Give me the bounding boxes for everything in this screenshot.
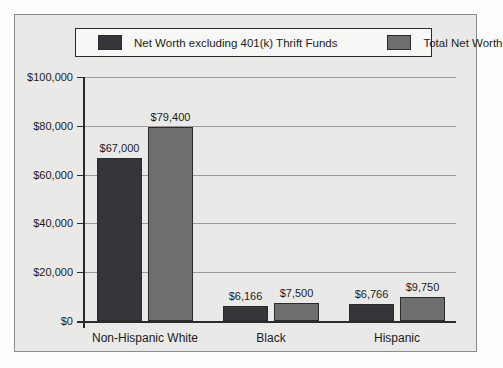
bar-net-worth-excluding-401-k-thrift-funds-black: [223, 306, 268, 321]
y-axis-label-80-000: $80,000: [5, 120, 73, 132]
bar-total-net-worth-black: [274, 303, 319, 321]
plot-area: $100,000$80,000$60,000$40,000$20,000$0$6…: [15, 15, 476, 351]
y-axis-label-0: $0: [5, 315, 73, 327]
y-axis-label-20-000: $20,000: [5, 266, 73, 278]
y-axis-label-60-000: $60,000: [5, 169, 73, 181]
bar-net-worth-excluding-401-k-thrift-funds-hispanic: [349, 304, 394, 321]
bar-net-worth-excluding-401-k-thrift-funds-non-hispanic-white: [97, 158, 142, 321]
gridline-80-000: [83, 126, 456, 127]
y-axis-label-40-000: $40,000: [5, 217, 73, 229]
y-axis-line: [83, 77, 85, 321]
y-axis-label-100-000: $100,000: [5, 71, 73, 83]
x-axis-origin-tick: [83, 323, 85, 328]
bar-total-net-worth-hispanic: [400, 297, 445, 321]
value-label-total-net-worth-black: $7,500: [255, 287, 339, 299]
gridline-100-000: [83, 77, 456, 78]
value-label-total-net-worth-hispanic: $9,750: [381, 281, 465, 293]
chart-panel: Net Worth excluding 401(k) Thrift Funds …: [14, 14, 477, 352]
x-axis-line: [77, 321, 456, 323]
x-axis-label-hispanic: Hispanic: [317, 331, 477, 345]
bar-total-net-worth-non-hispanic-white: [148, 127, 193, 321]
value-label-total-net-worth-non-hispanic-white: $79,400: [129, 111, 213, 123]
